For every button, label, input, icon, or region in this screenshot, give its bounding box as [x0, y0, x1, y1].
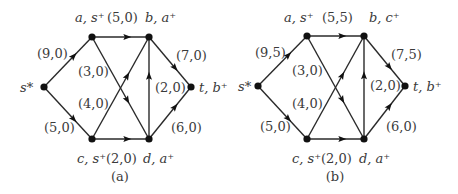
- node-dot: [88, 135, 95, 142]
- node-label: t, b⁺: [199, 80, 228, 95]
- node-dot: [145, 135, 152, 142]
- arrowhead-icon: [123, 71, 132, 81]
- node-s: s*: [238, 79, 262, 94]
- edge-label: (5,0): [260, 119, 291, 134]
- node-dot: [145, 33, 152, 40]
- node-label: d, a⁺: [359, 151, 390, 166]
- node-label: a, s⁺: [75, 10, 105, 25]
- arrowhead-icon: [338, 70, 347, 80]
- node-dot: [360, 135, 367, 142]
- edge-s-a: (9,5): [255, 36, 307, 86]
- edge-label: (6,0): [171, 120, 202, 135]
- edge-label: (4,0): [292, 96, 323, 111]
- edge-label: (6,0): [386, 119, 417, 134]
- edge-s-a: (9,0): [37, 37, 92, 87]
- edge-label: (7,5): [391, 47, 422, 62]
- edge-label: (2,0): [370, 78, 401, 93]
- node-label: b, a⁺: [145, 10, 176, 25]
- node-label: c, s⁺: [292, 151, 321, 166]
- node-s: s*: [20, 80, 48, 95]
- edge-label: (2,0): [106, 151, 137, 166]
- node-dot: [360, 32, 367, 39]
- node-label: s*: [238, 79, 252, 94]
- node-b: b, a⁺: [145, 10, 176, 41]
- node-c: c, s⁺: [292, 135, 321, 166]
- node-c: c, s⁺: [77, 135, 106, 166]
- node-dot: [88, 33, 95, 40]
- edge-label: (7,0): [176, 48, 207, 63]
- node-dot: [254, 82, 261, 89]
- edge-label: (2,0): [155, 80, 186, 95]
- edge-label: (5,5): [322, 10, 353, 25]
- arrowhead-icon: [338, 95, 347, 105]
- node-a: a, s⁺: [284, 10, 314, 40]
- panel-a: (9,0)(5,0)(3,0)(4,0)(5,0)(7,0)(2,0)(6,0)…: [20, 10, 228, 184]
- panel-b: (9,5)(5,5)(3,0)(4,0)(5,0)(7,5)(2,0)(6,0)…: [238, 10, 442, 184]
- node-label: d, a⁺: [143, 151, 174, 166]
- edge-label: (4,0): [78, 96, 109, 111]
- edge-s-c: (5,0): [258, 86, 307, 139]
- node-t: t, b⁺: [187, 80, 227, 95]
- edge-d-t: (6,0): [364, 86, 417, 139]
- panel-caption: (b): [326, 169, 344, 184]
- node-dot: [401, 82, 408, 89]
- node-label: t, b⁺: [413, 79, 442, 94]
- node-label: a, s⁺: [284, 10, 314, 25]
- edge-a-b: (5,5): [307, 10, 364, 39]
- node-dot: [303, 32, 310, 39]
- edge-s-c: (5,0): [44, 87, 92, 139]
- panel-caption: (a): [111, 169, 129, 184]
- node-d: d, a⁺: [143, 135, 174, 166]
- node-t: t, b⁺: [401, 79, 441, 94]
- node-a: a, s⁺: [75, 10, 105, 41]
- edge-label: (9,0): [37, 46, 68, 61]
- edge-c-b: (4,0): [78, 37, 149, 139]
- edge-c-b: (4,0): [292, 36, 364, 139]
- node-b: b, c⁺: [360, 10, 399, 40]
- edge-label: (9,5): [255, 45, 286, 60]
- edge-label: (3,0): [78, 64, 109, 79]
- edge-a-d: (3,0): [78, 37, 149, 139]
- node-label: c, s⁺: [77, 151, 106, 166]
- flow-network-figure: (9,0)(5,0)(3,0)(4,0)(5,0)(7,0)(2,0)(6,0)…: [0, 0, 458, 194]
- node-label: b, c⁺: [369, 10, 400, 25]
- node-label: s*: [20, 80, 34, 95]
- node-dot: [40, 83, 47, 90]
- node-d: d, a⁺: [359, 135, 390, 166]
- node-dot: [187, 83, 194, 90]
- edge-label: (5,0): [107, 10, 138, 25]
- node-dot: [303, 135, 310, 142]
- arrowhead-icon: [123, 95, 132, 105]
- edge-label: (5,0): [44, 120, 75, 135]
- edge-label: (3,0): [292, 63, 323, 78]
- edge-a-d: (3,0): [292, 36, 364, 139]
- edge-label: (2,0): [321, 151, 352, 166]
